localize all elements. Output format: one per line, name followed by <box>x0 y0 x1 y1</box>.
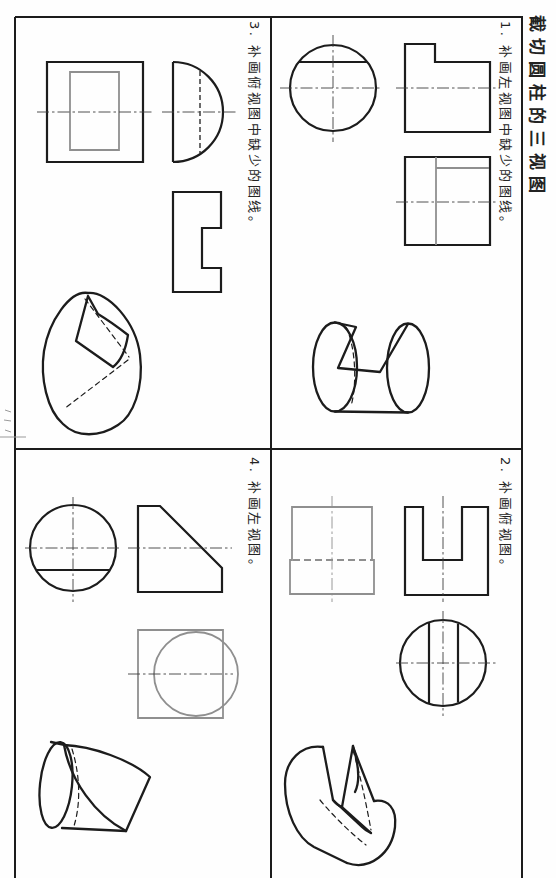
ex3-answer-rect <box>70 72 119 150</box>
ex3-pictorial <box>43 293 141 434</box>
exercise-2-label: 2. 补画俯视图。 <box>497 457 516 574</box>
ex2-pictorial-slot-walls <box>323 746 353 807</box>
ex3-half-circle-view <box>162 62 236 162</box>
exercise-4-label: 4. 补画左视图。 <box>246 457 265 574</box>
ex4-pentagon-outline <box>138 506 222 592</box>
exercise-3-label: 3. 补画俯视图中缺少的图线。 <box>246 21 265 231</box>
ex1-answer-view <box>396 157 498 245</box>
ex3-notched-view <box>173 192 221 292</box>
ex4-answer-view <box>128 630 238 718</box>
ex3-pictorial-hidden-1 <box>85 299 129 357</box>
ex4-pictorial <box>36 741 150 831</box>
ex2-circle-view <box>396 611 497 716</box>
ex3-pictorial-hidden-2 <box>64 360 128 409</box>
ex4-circle-view <box>25 497 122 602</box>
ex1-pictorial-hidden-arc <box>346 327 355 406</box>
ex3-pictorial-silhouette <box>43 293 141 434</box>
ex1-answer-rect <box>405 157 490 245</box>
ex3-notched-outline <box>173 192 221 292</box>
ex1-pictorial-right-cap <box>387 324 429 413</box>
exercise-1-label: 1. 补画左视图中缺少的图线。 <box>497 21 516 231</box>
ex3-pictorial-notch <box>76 296 128 367</box>
ex2-answer-view <box>290 496 374 602</box>
ex1-pictorial <box>313 323 429 413</box>
drawing-canvas <box>0 0 556 878</box>
edge-marks <box>4 410 11 432</box>
ex4-pictorial-left-cap <box>36 741 77 830</box>
ex3-square-view <box>37 62 153 162</box>
ex1-stepped-view <box>396 44 500 132</box>
exercise-3-drawings <box>37 62 236 434</box>
ex4-pentagon-view <box>128 506 232 592</box>
ex2-u-view <box>405 496 488 602</box>
worksheet-page: 截切圆柱的三视图 1. 补画左视图中缺少的图线。 2. 补画俯视图。 3. 补画… <box>0 0 556 878</box>
ex4-pictorial-hidden-arc <box>72 749 79 826</box>
exercise-1-drawings <box>280 35 500 413</box>
page-title: 截切圆柱的三视图 <box>526 15 551 199</box>
ex1-pictorial-bottom-edge <box>335 412 408 413</box>
ex1-pictorial-left-cap <box>313 323 357 412</box>
exercise-4-drawings <box>25 497 238 831</box>
ex1-circle-view <box>280 35 380 142</box>
ex2-u-outline <box>405 507 488 595</box>
exercise-2-drawings <box>285 496 497 865</box>
ex4-pictorial-bottom-edge <box>62 828 126 831</box>
ex2-pictorial <box>285 746 395 865</box>
